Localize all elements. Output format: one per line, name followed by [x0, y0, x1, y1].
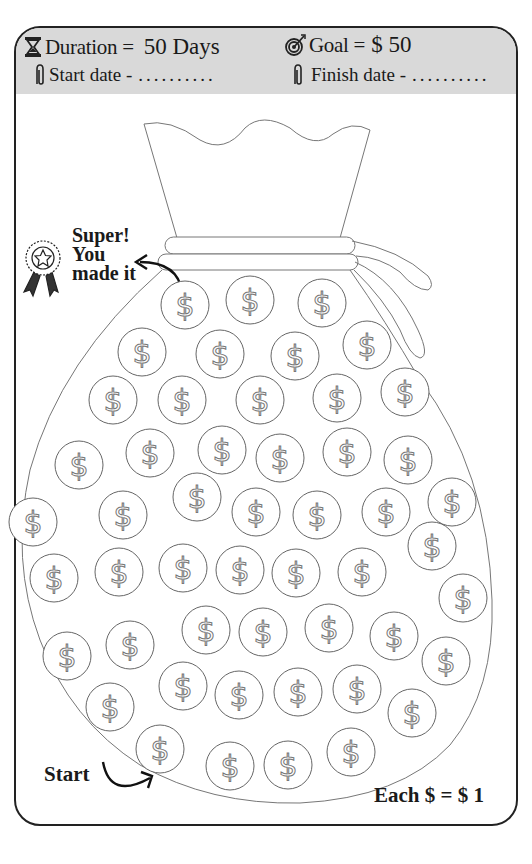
coin-slot[interactable]: $	[407, 521, 457, 571]
svg-text:$: $	[352, 555, 371, 590]
dollar-coin-icon: $	[369, 611, 419, 661]
start-label: Start	[44, 762, 90, 787]
svg-text:$: $	[57, 639, 76, 674]
dollar-coin-icon: $	[312, 373, 362, 423]
dollar-coin-icon: $	[231, 487, 281, 537]
coin-slot[interactable]: $	[255, 433, 305, 483]
coin-slot[interactable]: $	[273, 667, 323, 717]
dollar-coin-icon: $	[105, 620, 155, 670]
coin-slot[interactable]: $	[383, 435, 433, 485]
svg-text:$: $	[286, 556, 305, 591]
coin-slot[interactable]: $	[427, 477, 477, 527]
dollar-coin-icon: $	[421, 636, 471, 686]
coin-slot[interactable]: $	[271, 548, 321, 598]
coin-slot[interactable]: $	[85, 682, 135, 732]
dollar-coin-icon: $	[98, 490, 148, 540]
coin-slot[interactable]: $	[312, 373, 362, 423]
svg-text:$: $	[442, 485, 461, 520]
coin-slot[interactable]: $	[322, 427, 372, 477]
svg-text:$: $	[229, 678, 248, 713]
coin-slot[interactable]: $	[361, 487, 411, 537]
svg-text:$: $	[175, 288, 194, 323]
coin-slot[interactable]: $	[158, 543, 208, 593]
coin-slot[interactable]: $	[88, 375, 138, 425]
coin-slot[interactable]: $	[157, 375, 207, 425]
coin-slot[interactable]: $	[54, 440, 104, 490]
coin-slot[interactable]: $	[158, 661, 208, 711]
dollar-coin-icon: $	[326, 727, 376, 777]
coin-slot[interactable]: $	[105, 620, 155, 670]
coin-slot[interactable]: $	[195, 329, 245, 379]
dollar-coin-icon: $	[54, 440, 104, 490]
coin-slot[interactable]: $	[326, 727, 376, 777]
dollar-coin-icon: $	[125, 428, 175, 478]
coin-slot[interactable]: $	[181, 605, 231, 655]
coin-slot[interactable]: $	[172, 472, 222, 522]
coin-slot[interactable]: $	[297, 278, 347, 328]
coin-slot[interactable]: $	[160, 280, 210, 330]
svg-text:$: $	[240, 283, 259, 318]
coin-slot[interactable]: $	[342, 320, 392, 370]
coin-slot[interactable]: $	[421, 636, 471, 686]
svg-text:$: $	[113, 498, 132, 533]
dollar-coin-icon: $	[160, 280, 210, 330]
svg-text:$: $	[307, 498, 326, 533]
svg-text:$: $	[173, 551, 192, 586]
svg-text:$: $	[140, 436, 159, 471]
svg-text:$: $	[384, 619, 403, 654]
dollar-coin-icon: $	[238, 607, 288, 657]
coin-slot[interactable]: $	[225, 275, 275, 325]
coin-slot[interactable]: $	[197, 425, 247, 475]
dollar-coin-icon: $	[117, 327, 167, 377]
svg-text:$: $	[312, 286, 331, 321]
svg-text:$: $	[357, 328, 376, 363]
coin-slot[interactable]: $	[332, 664, 382, 714]
coin-slot[interactable]: $	[369, 611, 419, 661]
dollar-coin-icon: $	[172, 472, 222, 522]
dollar-coin-icon: $	[214, 670, 264, 720]
coin-slot[interactable]: $	[231, 487, 281, 537]
coin-slot[interactable]: $	[263, 740, 313, 790]
coin-slot[interactable]: $	[304, 603, 354, 653]
coin-slot[interactable]: $	[29, 553, 79, 603]
coin-value-legend: Each $ = $ 1	[374, 783, 484, 808]
coin-slot[interactable]: $	[42, 631, 92, 681]
coin-slot[interactable]: $	[292, 490, 342, 540]
svg-text:$: $	[347, 672, 366, 707]
coin-slot[interactable]: $	[94, 547, 144, 597]
dollar-coin-icon: $	[195, 329, 245, 379]
dollar-coin-icon: $	[88, 375, 138, 425]
coin-slot[interactable]: $	[98, 490, 148, 540]
svg-text:$: $	[109, 555, 128, 590]
svg-text:$: $	[220, 749, 239, 784]
svg-text:$: $	[230, 553, 249, 588]
coin-slot[interactable]: $	[438, 573, 488, 623]
coin-slot[interactable]: $	[215, 545, 265, 595]
coin-slot[interactable]: $	[135, 724, 185, 774]
money-bag-illustration	[0, 0, 532, 864]
dollar-coin-icon: $	[322, 427, 372, 477]
award-ribbon-icon	[24, 241, 60, 296]
dollar-coin-icon: $	[197, 425, 247, 475]
dollar-coin-icon: $	[438, 573, 488, 623]
svg-text:$: $	[23, 505, 42, 540]
svg-text:$: $	[69, 448, 88, 483]
coin-slot[interactable]: $	[380, 367, 430, 417]
svg-text:$: $	[288, 675, 307, 710]
dollar-coin-icon: $	[135, 724, 185, 774]
coin-slot[interactable]: $	[238, 607, 288, 657]
dollar-coin-icon: $	[361, 487, 411, 537]
dollar-coin-icon: $	[427, 477, 477, 527]
coin-slot[interactable]: $	[117, 327, 167, 377]
coin-slot[interactable]: $	[205, 741, 255, 791]
coin-slot[interactable]: $	[125, 428, 175, 478]
dollar-coin-icon: $	[94, 547, 144, 597]
svg-text:$: $	[436, 644, 455, 679]
coin-slot[interactable]: $	[214, 670, 264, 720]
svg-text:$: $	[398, 443, 417, 478]
coin-slot[interactable]: $	[387, 688, 437, 738]
coin-slot[interactable]: $	[8, 497, 58, 547]
svg-text:$: $	[319, 611, 338, 646]
coin-slot[interactable]: $	[235, 375, 285, 425]
coin-slot[interactable]: $	[337, 547, 387, 597]
